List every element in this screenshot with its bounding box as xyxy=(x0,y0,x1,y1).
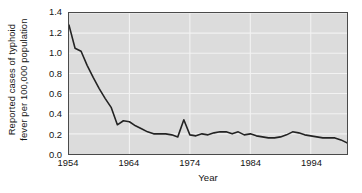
y-axis-label: Reported cases of typhoid fever per 100,… xyxy=(0,0,36,160)
data-line-typhoid xyxy=(69,25,347,143)
y-tick-label: 1.2 xyxy=(49,28,62,37)
typhoid-fever-line-chart: Reported cases of typhoid fever per 100,… xyxy=(0,0,362,193)
x-tick-label: 1964 xyxy=(118,157,139,168)
x-tick-label: 1994 xyxy=(301,157,322,168)
y-tick-label: 0.2 xyxy=(49,130,62,139)
y-tick-label: 0.6 xyxy=(49,89,62,98)
x-axis-label: Year xyxy=(68,172,348,183)
x-tick-label: 1984 xyxy=(240,157,261,168)
plot-canvas xyxy=(69,13,347,154)
y-axis-label-line-2: fever per 100,000 population xyxy=(18,19,30,141)
y-tick-label: 1.4 xyxy=(49,7,62,16)
y-tick-label: 0.4 xyxy=(49,109,62,118)
plot-area xyxy=(68,12,348,155)
y-tick-label: 1.0 xyxy=(49,48,62,57)
y-tick-label: 0.8 xyxy=(49,69,62,78)
x-tick-label: 1954 xyxy=(58,157,79,168)
horizontal-gridlines xyxy=(69,13,347,134)
vertical-gridlines xyxy=(129,13,310,154)
x-tick-label: 1974 xyxy=(179,157,200,168)
x-axis-tick-labels: 19541964197419841994 xyxy=(0,157,362,171)
y-axis-label-line-1: Reported cases of typhoid xyxy=(6,19,18,141)
